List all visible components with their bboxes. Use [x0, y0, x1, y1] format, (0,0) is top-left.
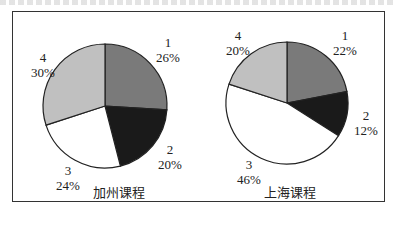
pie-chart-shanghai	[226, 42, 348, 164]
label-right-slice-4: 4 20%	[218, 28, 258, 58]
slice-name: 3	[48, 163, 88, 178]
slice-percent: 12%	[346, 123, 386, 138]
slice-percent: 22%	[325, 43, 365, 58]
label-right-slice-1: 1 22%	[325, 28, 365, 58]
chart-title-california: 加州课程	[93, 182, 145, 201]
slice-percent: 30%	[23, 65, 63, 80]
label-left-slice-4: 4 30%	[23, 50, 63, 80]
slice-name: 3	[229, 157, 269, 172]
label-left-slice-2: 2 20%	[150, 142, 190, 172]
label-right-slice-2: 2 12%	[346, 108, 386, 138]
slice-name: 2	[150, 142, 190, 157]
slice-percent: 46%	[229, 172, 269, 187]
slice-percent: 24%	[48, 178, 88, 193]
slice-name: 1	[325, 28, 365, 43]
slice-name: 4	[23, 50, 63, 65]
slice-percent: 20%	[218, 43, 258, 58]
chart-title-shanghai: 上海课程	[264, 182, 316, 201]
slice-percent: 26%	[148, 50, 188, 65]
slice-name: 2	[346, 108, 386, 123]
slice-name: 1	[148, 35, 188, 50]
label-left-slice-3: 3 24%	[48, 163, 88, 193]
label-left-slice-1: 1 26%	[148, 35, 188, 65]
slice-percent: 20%	[150, 157, 190, 172]
slice-name: 4	[218, 28, 258, 43]
label-right-slice-3: 3 46%	[229, 157, 269, 187]
